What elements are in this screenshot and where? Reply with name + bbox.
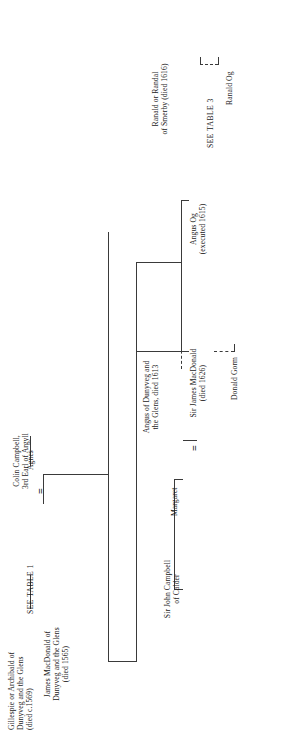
sir-john-campbell-line-2: of Calder <box>173 541 182 637</box>
margaret-label: Margaret <box>171 458 180 516</box>
angus-dunyveg-line-2: the Glens, died 1613 <box>152 327 161 467</box>
node-see-table-1[interactable]: SEE TABLE 1 <box>27 544 36 614</box>
angus-og-line-2: (executed 1615) <box>199 193 208 265</box>
node-sir-james-macdonald: Sir James MacDonald (died 1626) <box>190 334 208 432</box>
connector-ranald-og-tick-b <box>218 57 219 65</box>
connector-root-spine <box>108 232 109 662</box>
see-table-1-label: SEE TABLE 1 <box>27 544 36 614</box>
marriage-symbol-2: = <box>190 445 200 451</box>
connector-ranald-og-tick-a <box>200 57 201 65</box>
node-angus-og: Angus Og (executed 1615) <box>190 193 208 265</box>
node-james-macdonald: James MacDonald of Dunyveg and the Glens… <box>44 593 71 735</box>
ranald-og-label: Ranald Og <box>226 45 235 105</box>
node-ranald-smerby: Ranald or Randal of Smerby (died 1616) <box>152 35 170 163</box>
node-ranald-og: Ranald Og <box>226 45 235 105</box>
connector-sir-james-tick <box>181 351 189 352</box>
agnes-label: Agnes <box>27 430 36 470</box>
connector-angus-og-tick <box>181 200 189 201</box>
connector-marriage-2-stem <box>183 440 197 441</box>
connector-ranald-smerby <box>136 262 181 263</box>
node-agnes: Agnes <box>27 430 36 470</box>
node-see-table-3[interactable]: SEE TABLE 3 <box>207 76 216 148</box>
connector-angus-children-bar <box>181 200 182 352</box>
marriage-symbol-1: = <box>36 488 46 494</box>
see-table-3-label: SEE TABLE 3 <box>207 76 216 148</box>
genealogical-chart-page: Gillespie or Archibald of Dunyveg and th… <box>0 0 287 738</box>
node-sir-john-campbell: Sir John Campbell of Calder <box>164 541 182 637</box>
connector-dashed-ranald-og <box>200 64 218 65</box>
sir-james-line-2: (died 1626) <box>199 334 208 432</box>
connector-root-elbow <box>108 661 136 662</box>
connector-generation-bar-2 <box>136 262 137 662</box>
james-macdonald-line-3: (died 1565) <box>62 593 71 735</box>
donald-gorm-label: Donald Gorm <box>231 330 240 400</box>
node-margaret: Margaret <box>171 458 180 516</box>
node-donald-gorm: Donald Gorm <box>231 330 240 400</box>
ranald-smerby-line-2: of Smerby (died 1616) <box>161 35 170 163</box>
node-angus-dunyveg: Angus of Dunyveg and the Glens, died 161… <box>143 327 161 467</box>
connector-marriage-1-stem <box>43 474 108 475</box>
